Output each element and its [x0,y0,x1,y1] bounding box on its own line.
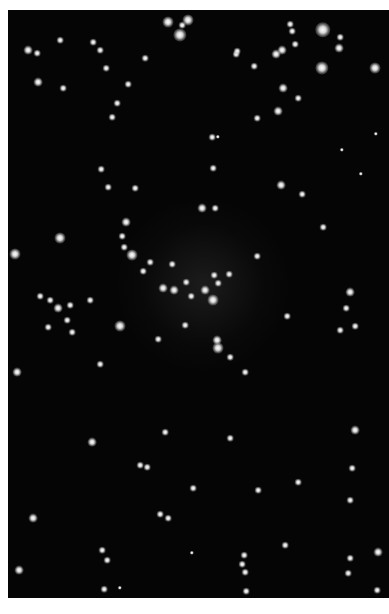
star [155,336,162,343]
star [24,46,33,55]
star [284,313,291,320]
star [340,148,344,152]
star [137,462,144,469]
star [118,586,122,590]
star [13,368,22,377]
star [347,497,354,504]
star [299,191,306,198]
star [142,55,149,62]
star [88,438,97,447]
star [295,479,302,486]
star [251,63,258,70]
star [127,250,138,261]
star [239,561,246,568]
star [349,465,356,472]
star-field-image [8,10,389,598]
star [287,21,294,28]
star [54,304,63,313]
star [243,588,250,595]
star [97,361,104,368]
star [45,324,52,331]
star [277,181,286,190]
star [343,305,350,312]
star [255,487,262,494]
star [211,272,218,279]
star [90,39,97,46]
star [190,485,197,492]
star [173,28,186,41]
star [278,46,287,55]
star [188,293,195,300]
star [99,547,106,554]
star [190,551,194,555]
star [352,323,359,330]
star [115,321,126,332]
star [169,261,176,268]
star [295,95,302,102]
star [370,63,381,74]
star [114,100,121,107]
star [10,249,21,260]
star [144,464,151,471]
star [29,514,38,523]
star [97,47,104,54]
star [182,322,189,329]
star [87,297,94,304]
star [292,41,299,48]
star [208,295,219,306]
star [47,297,54,304]
star [101,586,108,593]
star [289,28,296,35]
star [201,286,210,295]
star [227,435,234,442]
star [69,329,76,336]
star [121,244,128,251]
star [183,15,194,26]
star [279,84,288,93]
star [347,555,354,562]
star [125,81,132,88]
star [274,107,283,116]
star [198,204,207,213]
star [132,185,139,192]
star [103,65,110,72]
star [37,293,44,300]
star [183,279,190,286]
star [242,569,249,576]
star [346,288,355,297]
star [215,280,222,287]
star [359,172,363,176]
star [254,115,261,122]
star [254,253,261,260]
star [109,114,116,121]
star [60,85,67,92]
star [64,317,71,324]
star [226,271,233,278]
star [315,22,330,37]
star [241,552,248,559]
star [234,48,241,55]
star [140,268,147,275]
star [335,44,344,53]
star [147,259,154,266]
star [57,37,64,44]
star [170,286,179,295]
star [157,511,164,518]
star [210,165,217,172]
star [320,224,327,231]
star [209,134,216,141]
star [337,34,344,41]
star [105,184,112,191]
star [374,132,378,136]
star [374,548,383,557]
star [162,429,169,436]
star [374,587,381,594]
star [351,426,360,435]
star [216,135,220,139]
star [34,78,43,87]
star [98,166,105,173]
star [165,515,172,522]
star [67,302,74,309]
star [282,542,289,549]
star [15,566,24,575]
